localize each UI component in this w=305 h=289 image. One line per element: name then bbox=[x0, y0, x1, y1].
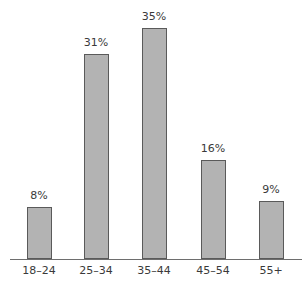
bar-25-34 bbox=[84, 54, 109, 259]
value-label: 9% bbox=[246, 183, 296, 196]
value-label: 31% bbox=[71, 36, 121, 49]
category-label: 25–34 bbox=[68, 264, 124, 277]
category-label: 45–54 bbox=[185, 264, 241, 277]
bar-chart: 8% 31% 35% 16% 9% 18–24 25–34 35–44 45–5… bbox=[0, 0, 305, 289]
bar-45-54 bbox=[201, 160, 226, 259]
category-label: 18–24 bbox=[11, 264, 67, 277]
category-label: 55+ bbox=[243, 264, 299, 277]
value-label: 8% bbox=[14, 189, 64, 202]
bar-35-44 bbox=[142, 28, 167, 259]
x-axis-line bbox=[10, 259, 302, 260]
bar-18-24 bbox=[27, 207, 52, 259]
category-label: 35–44 bbox=[126, 264, 182, 277]
value-label: 35% bbox=[129, 10, 179, 23]
value-label: 16% bbox=[188, 142, 238, 155]
bar-55-plus bbox=[259, 201, 284, 259]
